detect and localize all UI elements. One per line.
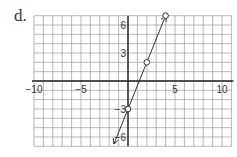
x-tick-label: 10 [216,84,228,95]
graph-line [114,16,166,144]
x-tick-label: −5 [75,84,87,95]
data-point [144,60,150,66]
y-tick-label: 3 [120,48,126,59]
y-tick-label: −3 [115,104,127,115]
y-tick-label: 6 [120,20,126,31]
data-point [125,106,131,112]
x-tick-label: −10 [26,84,43,95]
coordinate-graph: −10−551063−3−6 [0,0,237,157]
data-point [163,13,169,19]
x-tick-label: 5 [172,84,178,95]
